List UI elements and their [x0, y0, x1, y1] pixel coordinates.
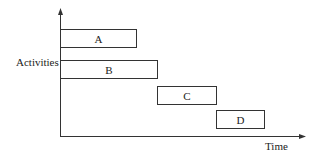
activity-label: D: [237, 114, 245, 126]
activity-label: B: [105, 64, 112, 76]
activity-label: A: [95, 33, 103, 45]
activity-bar-d: D: [216, 110, 265, 129]
activity-label: C: [183, 90, 190, 102]
axes: [0, 0, 317, 159]
y-axis-arrow-icon: [58, 8, 63, 15]
activity-bar-b: B: [60, 60, 158, 79]
x-axis-arrow-icon: [299, 134, 306, 139]
activity-bar-c: C: [157, 86, 217, 105]
x-axis-label: Time: [265, 140, 288, 152]
activity-bar-a: A: [60, 29, 137, 48]
y-axis-label: Activities: [16, 56, 59, 68]
